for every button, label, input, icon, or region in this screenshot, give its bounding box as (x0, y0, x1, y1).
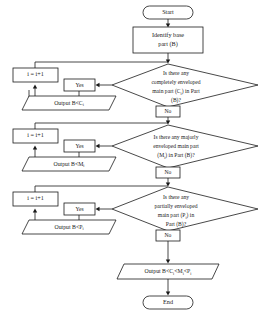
arrow-decision3-to-final (166, 260, 170, 264)
arrow-loop1-into-inc1 (33, 85, 37, 89)
node-identify-line1: Identify base (152, 31, 184, 38)
arrow-final-to-end (166, 292, 170, 296)
node-end-label: End (163, 298, 174, 305)
edge-label-yes2: Yes (75, 143, 83, 149)
edge-label-no2: No (165, 169, 172, 175)
decision3-line1: Is there any (163, 194, 189, 200)
arrow-loop2-into-inc2 (33, 146, 37, 150)
decision3-line2: partially enveloped (154, 203, 197, 209)
increment1-label: i = i+1 (27, 70, 44, 77)
increment3-label: i = i+1 (27, 194, 44, 201)
node-identify-line2: part (B) (158, 40, 177, 48)
decision2-line2: enveloped main part (153, 143, 199, 149)
edge-label-yes1: Yes (75, 82, 83, 88)
decision1-line2: completely enveloped (151, 79, 200, 85)
edge-label-no1: No (165, 108, 172, 114)
connector-loop2-back (35, 123, 168, 129)
edge-label-yes3: Yes (75, 206, 83, 212)
node-start-label: Start (162, 8, 174, 15)
decision3-line4: Part (B)? (166, 221, 187, 228)
connector-loop3-back (35, 186, 168, 192)
edge-label-no3: No (165, 232, 172, 238)
decision1-line4: (B)? (171, 97, 181, 104)
flowchart-canvas: Start Identify base part (B) Is there an… (0, 0, 262, 321)
arrow-decision1-to-decision2 (166, 121, 170, 125)
decision2-line1: Is there any majorly (154, 134, 199, 140)
arrow-decision1-yes (96, 83, 100, 87)
increment2-label: i = i+1 (27, 131, 44, 138)
arrow-decision3-yes (96, 207, 100, 211)
arrow-loop3-into-inc3 (33, 209, 37, 213)
arrow-decision2-yes (96, 144, 100, 148)
connector-loop1-back (35, 62, 168, 68)
decision1-line1: Is there any (163, 70, 189, 76)
arrow-identify-to-decision1 (166, 60, 170, 64)
